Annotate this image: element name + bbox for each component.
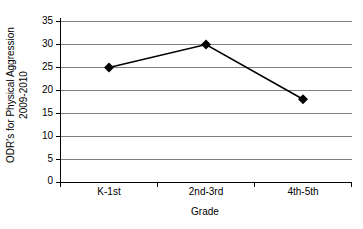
x-tick-label-2nd-3rd: 2nd-3rd (176, 186, 236, 198)
y-axis-ticks (56, 22, 60, 183)
data-point-marker (104, 63, 114, 73)
x-tick-label-4th-5th: 4th-5th (273, 186, 333, 198)
data-point-marker (201, 40, 211, 50)
data-point-marker (298, 94, 308, 104)
line-chart: ODR's for Physical Aggression 2009-2010 … (0, 0, 363, 229)
x-tick-label-k-1st: K-1st (79, 186, 139, 198)
x-axis-title: Grade (57, 206, 353, 217)
data-markers (104, 40, 308, 105)
data-line (109, 45, 303, 100)
